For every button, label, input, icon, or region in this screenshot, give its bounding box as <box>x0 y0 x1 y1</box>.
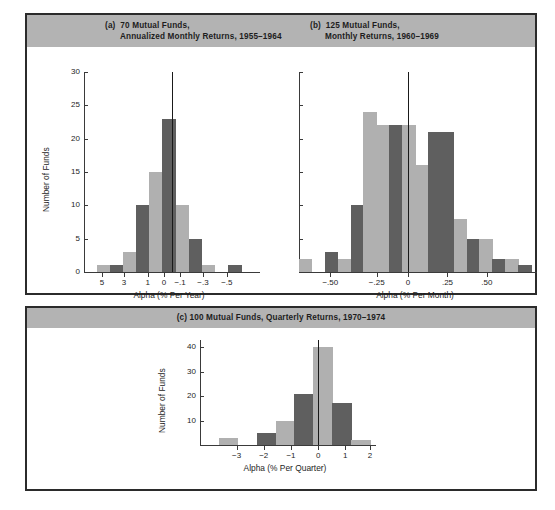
chart-a-y-axis-title: Number of Funds <box>42 147 51 212</box>
chart-b-bar <box>479 239 492 272</box>
chart-b-bar <box>363 112 376 272</box>
chart-a-x-tick <box>203 273 204 277</box>
chart-a-bar <box>202 265 216 272</box>
chart-b-x-axis-title: Alpha (% Per Month) <box>299 291 531 300</box>
chart-a-y-tick <box>84 272 88 273</box>
chart-a-y-tick-label: 25 <box>58 101 80 109</box>
chart-b-bar <box>441 132 454 272</box>
chart-a-x-tick <box>164 273 165 277</box>
chart-b-bars <box>299 72 531 272</box>
chart-a-bars <box>84 72 254 272</box>
chart-b-x-tick-label: 0 <box>390 279 426 287</box>
chart-b-x-tick-label: .25 <box>429 279 465 287</box>
chart-c-x-tick <box>318 446 319 450</box>
chart-a-y-tick-label: 5 <box>58 235 80 243</box>
panel-b-title: (b) 125 Mutual Funds,Monthly Returns, 19… <box>310 20 439 42</box>
chart-a-x-tick-label: −.5 <box>209 279 245 287</box>
chart-a-y-tick-label: 30 <box>58 68 80 76</box>
chart-b-x-tick-label: .50 <box>469 279 505 287</box>
chart-b-bar <box>505 259 518 272</box>
chart-a-x-axis <box>84 272 260 273</box>
chart-c-y-axis-title: Number of Funds <box>158 368 167 433</box>
chart-a-bar <box>176 205 190 272</box>
chart-b-bar <box>299 259 312 272</box>
chart-b-x-tick <box>408 273 409 277</box>
chart-c-bar <box>294 394 313 445</box>
chart-b-x-tick <box>377 273 378 277</box>
chart-b-bar <box>492 259 505 272</box>
panel-box-top: (a) 70 Mutual Funds,Annualized Monthly R… <box>25 13 537 295</box>
chart-b: −.50−.250.25.50Alpha (% Per Month) <box>299 72 531 272</box>
chart-c-x-tick <box>237 446 238 450</box>
chart-a-bar <box>189 239 203 272</box>
chart-c-bar <box>219 438 238 445</box>
chart-b-bar <box>325 252 338 272</box>
chart-c-y-tick-label: 30 <box>174 368 196 376</box>
chart-a-y-tick-label: 20 <box>58 135 80 143</box>
chart-a-x-tick <box>227 273 228 277</box>
chart-b-bar <box>467 239 480 272</box>
chart-a-bar <box>228 265 242 272</box>
panel-a-title-line2: Annualized Monthly Returns, 1955–1964 <box>120 32 282 41</box>
chart-c-bar <box>257 433 276 445</box>
chart-c-bar <box>351 440 370 445</box>
chart-a-x-tick <box>124 273 125 277</box>
panel-a-tag: (a) <box>105 21 115 30</box>
panel-b-tag: (b) <box>310 21 321 30</box>
chart-b-bar <box>415 165 428 272</box>
chart-a-bar <box>110 265 124 272</box>
figure-root: (a) 70 Mutual Funds,Annualized Monthly R… <box>0 0 555 510</box>
panel-b-title-line2: Monthly Returns, 1960–1969 <box>325 32 439 41</box>
chart-b-x-tick-label: −.50 <box>312 279 348 287</box>
panel-a-title: (a) 70 Mutual Funds,Annualized Monthly R… <box>105 20 282 42</box>
chart-b-x-tick <box>330 273 331 277</box>
chart-c-x-tick <box>370 446 371 450</box>
chart-b-bar <box>428 132 441 272</box>
chart-c-x-tick <box>345 446 346 450</box>
chart-b-bar <box>454 219 467 272</box>
chart-a-y-tick-label: 10 <box>58 201 80 209</box>
chart-b-bar <box>376 125 389 272</box>
chart-a-bar <box>136 205 150 272</box>
chart-c-x-tick <box>264 446 265 450</box>
chart-c-x-tick <box>291 446 292 450</box>
chart-a-bar <box>162 119 176 272</box>
chart-c: 10203040−3−2−1012Alpha (% Per Quarter)Nu… <box>200 340 370 445</box>
chart-c-x-axis <box>200 445 376 446</box>
chart-a-y-tick-label: 15 <box>58 168 80 176</box>
chart-c-x-tick-label: 2 <box>352 452 388 460</box>
chart-a: 0510152025305310−.1−.3−.5Alpha (% Per Ye… <box>84 72 254 272</box>
chart-b-zero-line <box>408 72 409 272</box>
chart-a-x-tick <box>180 273 181 277</box>
chart-a-x-tick <box>102 273 103 277</box>
chart-a-x-axis-title: Alpha (% Per Year) <box>84 291 254 300</box>
chart-a-y-tick-label: 0 <box>58 268 80 276</box>
chart-b-x-tick <box>447 273 448 277</box>
chart-a-bar <box>97 265 111 272</box>
chart-c-bar <box>276 421 295 445</box>
chart-c-bars <box>200 340 370 445</box>
chart-a-x-tick <box>148 273 149 277</box>
chart-a-bar <box>123 252 137 272</box>
chart-b-bar <box>389 125 402 272</box>
chart-b-x-tick <box>487 273 488 277</box>
chart-a-zero-line <box>172 72 173 272</box>
chart-c-x-axis-title: Alpha (% Per Quarter) <box>200 464 370 473</box>
chart-b-bar <box>338 259 351 272</box>
chart-c-zero-line <box>318 340 319 445</box>
chart-c-bar <box>332 403 351 445</box>
panel-b-title-line1: 125 Mutual Funds, <box>326 21 400 30</box>
chart-c-y-tick-label: 20 <box>174 392 196 400</box>
chart-b-y-tick <box>299 272 303 273</box>
chart-c-y-tick-label: 10 <box>174 417 196 425</box>
panel-a-title-line1: 70 Mutual Funds, <box>120 21 189 30</box>
chart-b-x-axis <box>299 272 537 273</box>
chart-b-bar <box>351 205 364 272</box>
chart-c-bar <box>313 347 332 445</box>
chart-b-bar <box>518 265 531 272</box>
panel-c-title: (c) 100 Mutual Funds, Quarterly Returns,… <box>27 312 535 323</box>
chart-c-y-tick-label: 40 <box>174 343 196 351</box>
chart-a-bar <box>149 172 163 272</box>
